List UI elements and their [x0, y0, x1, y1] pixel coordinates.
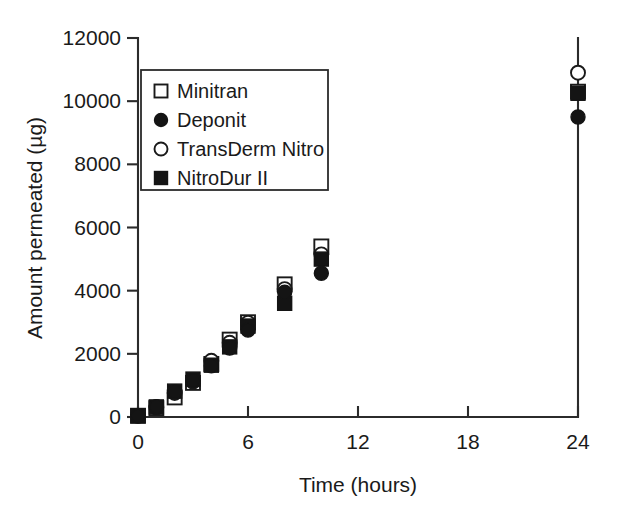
data-point-deponit-0h — [131, 409, 145, 423]
x-tick-label-6: 6 — [242, 430, 254, 453]
y-tick-label-0: 0 — [109, 405, 121, 428]
legend-marker-minitran — [155, 85, 168, 98]
y-axis-ticks — [127, 38, 138, 417]
data-point-deponit-8h — [278, 285, 292, 299]
data-point-deponit-24h — [571, 110, 585, 124]
scatter-plot: 020004000600080001000012000 06121824 Tim… — [0, 0, 617, 506]
x-tick-label-0: 0 — [132, 430, 144, 453]
y-tick-label-2000: 2000 — [74, 342, 121, 365]
x-axis-tick-labels: 06121824 — [132, 430, 590, 453]
legend-label-transderm-nitro: TransDerm Nitro — [177, 138, 324, 160]
y-tick-label-10000: 10000 — [63, 89, 121, 112]
chart-figure: 020004000600080001000012000 06121824 Tim… — [0, 0, 617, 506]
data-point-deponit-3h — [186, 374, 200, 388]
y-axis-title: Amount permeated (µg) — [23, 117, 46, 339]
data-point-nitrodur-ii-10h — [314, 252, 328, 266]
x-tick-label-24: 24 — [566, 430, 590, 453]
data-point-deponit-5h — [223, 341, 237, 355]
y-tick-label-6000: 6000 — [74, 216, 121, 239]
legend-marker-deponit — [155, 114, 168, 127]
data-point-deponit-1h — [149, 400, 163, 414]
legend-label-deponit: Deponit — [177, 109, 246, 131]
legend-label-minitran: Minitran — [177, 80, 248, 102]
legend: MinitranDeponitTransDerm NitroNitroDur I… — [141, 70, 328, 190]
y-axis-tick-labels: 020004000600080001000012000 — [63, 26, 121, 428]
data-point-deponit-6h — [241, 323, 255, 337]
x-axis-title: Time (hours) — [299, 473, 417, 496]
data-point-deponit-2h — [168, 385, 182, 399]
x-tick-label-12: 12 — [346, 430, 369, 453]
data-point-nitrodur-ii-24h — [571, 86, 585, 100]
legend-marker-nitrodur-ii — [155, 172, 168, 185]
y-tick-label-12000: 12000 — [63, 26, 121, 49]
y-tick-label-4000: 4000 — [74, 279, 121, 302]
data-point-deponit-10h — [314, 266, 328, 280]
legend-marker-transderm-nitro — [155, 143, 168, 156]
data-point-transderm-nitro-24h — [571, 66, 585, 80]
data-point-deponit-4h — [204, 359, 218, 373]
x-tick-label-18: 18 — [456, 430, 479, 453]
y-tick-label-8000: 8000 — [74, 152, 121, 175]
legend-label-nitrodur-ii: NitroDur II — [177, 167, 268, 189]
x-axis-ticks — [138, 406, 578, 417]
